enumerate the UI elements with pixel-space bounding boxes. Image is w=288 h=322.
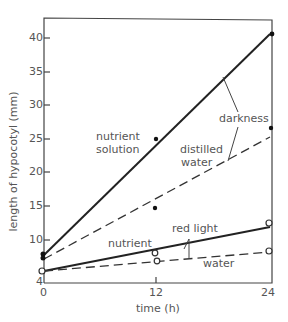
y-tick-label-10: 10: [29, 233, 43, 246]
y-tick-label-20: 20: [29, 165, 43, 178]
y-tick-label-30: 30: [29, 98, 43, 111]
label-water: water: [203, 258, 234, 270]
label-nutrient-solution-1: nutrient: [96, 131, 140, 143]
x-tick-label-24: 24: [261, 286, 275, 299]
label-distilled: distilled: [180, 144, 223, 156]
x-axis-label: time (h): [136, 303, 180, 315]
plot-frame: [44, 18, 272, 283]
y-tick-label-40: 40: [29, 31, 43, 44]
y-tick-label-25: 25: [29, 132, 43, 145]
label-red-light: red light: [172, 223, 218, 235]
y-tick-label-35: 35: [29, 65, 43, 78]
label-nutrient-solution-2: solution: [96, 144, 140, 156]
label-darkness: darkness: [219, 113, 269, 125]
line-darkness-water: [44, 137, 270, 259]
label-nutrient: nutrient: [108, 238, 152, 250]
y-ticks: [44, 38, 50, 240]
x-tick-label-0: 0: [40, 286, 47, 299]
y-axis-label: length of hypocotyl (mm): [7, 87, 20, 237]
label-distilled-water: water: [181, 157, 212, 169]
y-tick-label-15: 15: [29, 199, 43, 212]
line-darkness-nutrient: [44, 34, 270, 255]
chart-plot-area: [0, 0, 288, 322]
points-darkness: [41, 32, 275, 261]
x-tick-label-12: 12: [149, 286, 163, 299]
